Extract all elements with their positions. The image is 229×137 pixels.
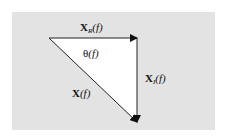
label-angle: θ(f) — [83, 47, 99, 60]
label-magnitude: X(f) — [72, 87, 91, 100]
phasor-triangle-diagram: XR(f) θ(f) XI(f) X(f) — [0, 0, 229, 137]
label-imag-part: XI(f) — [145, 72, 166, 86]
label-real-part: XR(f) — [80, 21, 103, 35]
